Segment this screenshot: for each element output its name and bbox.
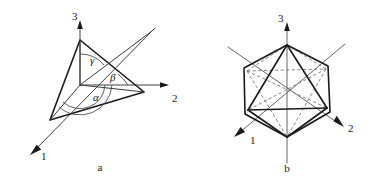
axis-3-arrowhead — [77, 20, 83, 29]
lattice-plane-triangle — [50, 40, 144, 120]
angle-label-gamma: γ — [90, 54, 95, 66]
angle-label-alpha: α — [93, 91, 99, 103]
axis-1-arrowhead — [234, 127, 245, 137]
axis-3-arrowhead — [284, 22, 290, 31]
edge-fr-bottom — [287, 108, 327, 137]
figure-root: 1 2 3 γ β α a — [0, 0, 369, 186]
hidden-edge-br-bottom — [287, 69, 326, 137]
axis-2-arrowhead — [333, 116, 344, 127]
panel-b-axis-1-label: 1 — [250, 134, 256, 146]
axis-1-arrowhead — [30, 145, 41, 155]
axis-1-line — [35, 28, 155, 150]
panel-a-axis-3-label: 3 — [72, 10, 78, 22]
panel-b-axis-2-label: 2 — [348, 122, 354, 134]
hidden-edge-bl-bottom — [247, 71, 287, 137]
angle-label-beta: β — [109, 71, 116, 83]
crystallographic-axes-figure: 1 2 3 γ β α a — [0, 0, 369, 186]
panel-a: 1 2 3 γ β α a — [30, 10, 178, 173]
panel-a-axis-1-label: 1 — [41, 150, 47, 162]
panel-b: 1 2 3 b — [228, 12, 354, 174]
panel-b-caption: b — [284, 162, 290, 174]
axis-2-arrowhead — [160, 82, 169, 88]
panel-b-axis-3-label: 3 — [278, 12, 284, 24]
panel-a-caption: a — [98, 161, 103, 173]
edge-fl-bottom — [248, 110, 287, 137]
panel-a-axis-2-label: 2 — [172, 92, 178, 104]
edge-front-horizontal — [248, 108, 327, 110]
